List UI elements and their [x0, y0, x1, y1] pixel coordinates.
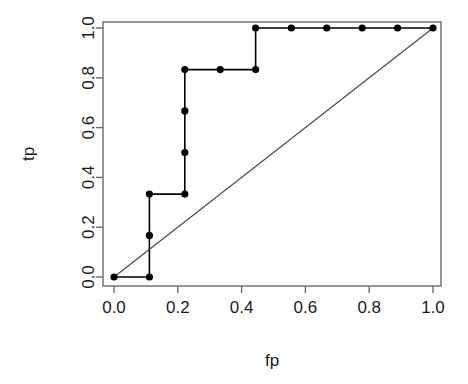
y-tick-label-3: 0.6	[79, 116, 98, 140]
data-point	[217, 66, 224, 73]
y-tick-label-2: 0.4	[79, 166, 98, 190]
x-tick-label-3: 0.6	[294, 298, 318, 317]
y-tick-label-1: 0.2	[79, 215, 98, 239]
data-point	[288, 24, 295, 31]
data-series-group	[110, 24, 436, 280]
x-axis-tick-labels: 0.00.20.40.60.81.0	[102, 298, 445, 317]
x-axis-ticks	[114, 286, 433, 293]
data-point	[181, 149, 188, 156]
data-point	[252, 24, 259, 31]
y-axis-tick-labels: 0.00.20.40.60.81.0	[79, 16, 98, 289]
data-point	[429, 24, 436, 31]
plot-canvas: 0.00.20.40.60.81.0 0.00.20.40.60.81.0 fp…	[0, 0, 468, 384]
data-point	[359, 24, 366, 31]
data-point	[252, 66, 259, 73]
x-tick-label-5: 1.0	[421, 298, 445, 317]
data-point	[181, 107, 188, 114]
data-point	[323, 24, 330, 31]
data-point	[181, 190, 188, 197]
data-point	[181, 66, 188, 73]
data-point	[146, 232, 153, 239]
data-point	[394, 24, 401, 31]
x-tick-label-0: 0.0	[102, 298, 126, 317]
y-tick-label-4: 0.8	[79, 66, 98, 90]
y-tick-label-5: 1.0	[79, 16, 98, 40]
x-tick-label-1: 0.2	[166, 298, 190, 317]
y-tick-label-0: 0.0	[79, 265, 98, 289]
x-tick-label-2: 0.4	[230, 298, 254, 317]
data-point	[146, 190, 153, 197]
data-point	[110, 273, 117, 280]
x-tick-label-4: 0.8	[357, 298, 381, 317]
series-line-reference-diagonal	[114, 28, 433, 277]
data-point	[146, 273, 153, 280]
y-axis-title: tp	[19, 147, 38, 161]
x-axis-title: fp	[265, 351, 279, 370]
roc-plot-figure: 0.00.20.40.60.81.0 0.00.20.40.60.81.0 fp…	[0, 0, 468, 384]
